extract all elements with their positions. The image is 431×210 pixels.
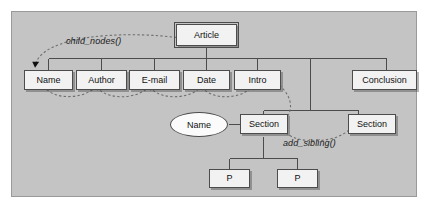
node-date[interactable]: Date	[183, 70, 230, 90]
node-intro-label: Intro	[248, 76, 266, 85]
node-section-second-label: Section	[357, 120, 387, 129]
node-section-second[interactable]: Section	[348, 114, 396, 134]
annotation-add-sibling: add_sibling()	[283, 138, 336, 148]
node-intro[interactable]: Intro	[234, 70, 281, 90]
node-section-name-label: Name	[187, 120, 211, 130]
node-email[interactable]: E-mail	[129, 70, 180, 90]
node-paragraph-1[interactable]: P	[209, 169, 250, 188]
annotation-child-nodes: child_nodes()	[66, 36, 121, 46]
node-date-label: Date	[197, 76, 216, 85]
node-article[interactable]: Article	[176, 24, 237, 46]
node-conclusion[interactable]: Conclusion	[352, 70, 417, 90]
node-email-label: E-mail	[142, 76, 168, 85]
node-article-label: Article	[194, 31, 219, 40]
node-conclusion-label: Conclusion	[362, 76, 407, 85]
dom-tree-figure: Article Name Author E-mail Date Intro Co…	[0, 0, 431, 210]
node-author[interactable]: Author	[76, 70, 127, 90]
node-section-name[interactable]: Name	[170, 112, 228, 137]
node-author-label: Author	[88, 76, 115, 85]
node-paragraph-2[interactable]: P	[277, 169, 318, 188]
node-paragraph-2-label: P	[294, 174, 300, 183]
node-section-first[interactable]: Section	[240, 114, 288, 134]
node-name[interactable]: Name	[24, 70, 73, 90]
node-name-label: Name	[36, 76, 60, 85]
node-section-first-label: Section	[249, 120, 279, 129]
node-paragraph-1-label: P	[226, 174, 232, 183]
